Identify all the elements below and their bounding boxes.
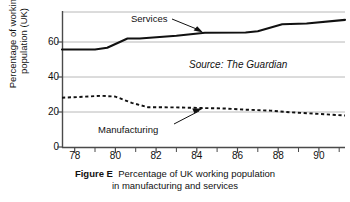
series-line-services bbox=[62, 20, 345, 50]
x-tick-label: 78 bbox=[62, 150, 88, 161]
services-annotation-label: Services bbox=[131, 13, 167, 24]
x-axis-tick-labels: 78 80 82 84 86 88 90 bbox=[0, 150, 350, 164]
x-tick-label: 88 bbox=[265, 150, 291, 161]
series-line-manufacturing bbox=[62, 96, 345, 116]
x-tick-label: 90 bbox=[306, 150, 332, 161]
caption-line-2: in manufacturing and services bbox=[0, 180, 350, 192]
figure-caption: Figure E Percentage of UK working popula… bbox=[0, 168, 350, 192]
x-tick-label: 86 bbox=[225, 150, 251, 161]
x-tick-label: 84 bbox=[184, 150, 210, 161]
figure-number: Figure E bbox=[75, 168, 113, 179]
figure-container: Percentage of working population (UK) 60… bbox=[0, 0, 350, 202]
source-note: Source: The Guardian bbox=[189, 59, 287, 70]
caption-line-1: Percentage of UK working population bbox=[118, 168, 275, 179]
services-arrow-icon bbox=[172, 19, 203, 33]
manufacturing-arrow-icon bbox=[174, 109, 203, 124]
x-tick-label: 82 bbox=[143, 150, 169, 161]
manufacturing-annotation-label: Manufacturing bbox=[98, 124, 158, 135]
gridlines bbox=[62, 42, 345, 112]
x-tick-label: 80 bbox=[102, 150, 128, 161]
